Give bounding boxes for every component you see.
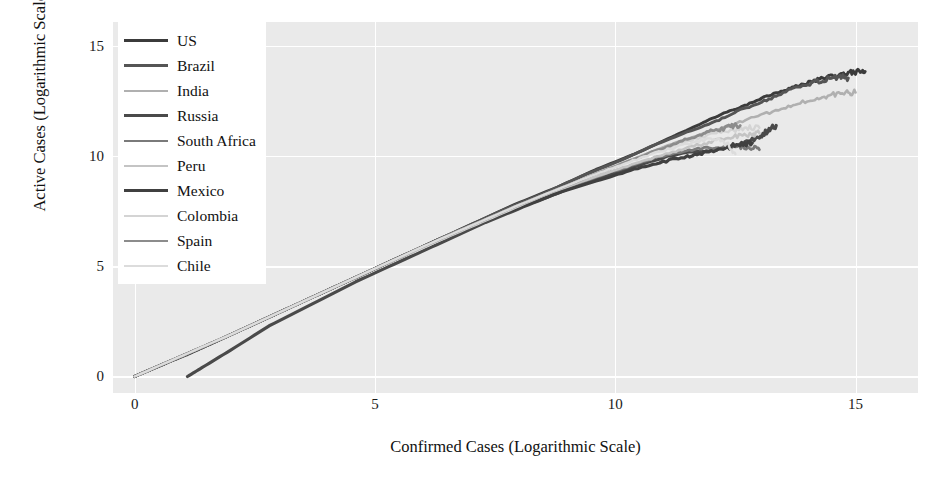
legend-item[interactable]: India — [124, 78, 256, 103]
y-tick-label: 15 — [89, 38, 104, 55]
legend-label: South Africa — [177, 133, 256, 149]
legend-label: India — [177, 83, 209, 99]
chart-figure: 051015 051015 Confirmed Cases (Logarithm… — [0, 0, 925, 485]
legend-swatch-line-icon — [124, 39, 168, 42]
legend-item[interactable]: Mexico — [124, 178, 256, 203]
legend-item[interactable]: South Africa — [124, 128, 256, 153]
legend-item[interactable]: Chile — [124, 253, 256, 278]
legend-item[interactable]: Peru — [124, 153, 256, 178]
legend-item[interactable]: US — [124, 28, 256, 53]
legend-swatch-line-icon — [124, 240, 168, 242]
y-tick-label: 0 — [97, 368, 105, 385]
series-line — [188, 125, 777, 376]
legend-item[interactable]: Colombia — [124, 203, 256, 228]
legend-swatch-line-icon — [124, 114, 168, 117]
legend-label: Spain — [177, 233, 212, 249]
legend-item[interactable]: Brazil — [124, 53, 256, 78]
x-tick-label: 10 — [608, 396, 623, 413]
y-axis-label: Active Cases (Logarithmic Scale) — [30, 0, 50, 250]
legend-label: Mexico — [177, 183, 224, 199]
legend-label: Chile — [177, 258, 211, 274]
legend-item[interactable]: Russia — [124, 103, 256, 128]
legend-swatch-line-icon — [124, 165, 168, 167]
legend-swatch-line-icon — [124, 215, 168, 217]
legend-label: Russia — [177, 108, 218, 124]
legend-swatch-line-icon — [124, 90, 168, 92]
legend-swatch-line-icon — [124, 189, 168, 192]
y-tick-label: 10 — [89, 148, 104, 165]
x-tick-label: 15 — [848, 396, 863, 413]
legend-label: Brazil — [177, 58, 215, 74]
legend-label: Peru — [177, 158, 205, 174]
chart-legend: USBrazilIndiaRussiaSouth AfricaPeruMexic… — [118, 22, 266, 284]
legend-swatch-line-icon — [124, 265, 168, 267]
legend-item[interactable]: Spain — [124, 228, 256, 253]
legend-swatch-line-icon — [124, 64, 168, 67]
x-tick-label: 5 — [371, 396, 379, 413]
x-tick-label: 0 — [131, 396, 139, 413]
y-tick-label: 5 — [97, 258, 105, 275]
legend-label: US — [177, 33, 197, 49]
x-axis-label: Confirmed Cases (Logarithmic Scale) — [113, 437, 918, 457]
legend-swatch-line-icon — [124, 140, 168, 142]
legend-label: Colombia — [177, 208, 238, 224]
